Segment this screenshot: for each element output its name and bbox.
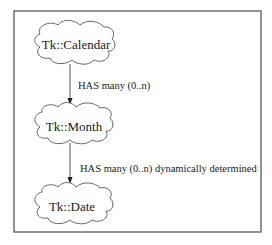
node-label: Tk::Month xyxy=(46,119,103,134)
edge-label: HAS many (0..n) dynamically determined xyxy=(80,163,257,175)
node-calendar: Tk::Calendar xyxy=(35,20,115,64)
node-label: Tk::Date xyxy=(49,199,95,214)
node-label: Tk::Calendar xyxy=(42,37,111,52)
diagram-canvas: Tk::Calendar HAS many (0..n) Tk::Month H… xyxy=(0,0,272,245)
node-month: Tk::Month xyxy=(35,102,113,143)
node-date: Tk::Date xyxy=(35,182,113,223)
edge-label: HAS many (0..n) xyxy=(78,80,151,92)
